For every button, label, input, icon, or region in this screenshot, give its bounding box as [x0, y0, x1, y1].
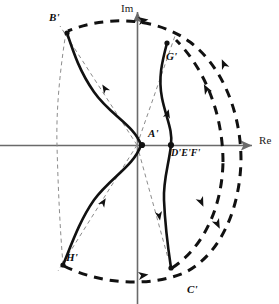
node-dot-G [164, 40, 169, 45]
dashed-inner-lower-arrow-icon [196, 196, 207, 208]
node-dot-C [168, 265, 173, 270]
dashed-inner-arc-upper [176, 40, 223, 162]
solid-curve-group [63, 33, 171, 268]
diagram-canvas [0, 0, 279, 304]
axis-group [0, 12, 252, 304]
point-label-B: B' [49, 11, 60, 23]
point-label-G: G' [166, 50, 177, 62]
real-axis-label: Re [259, 134, 272, 146]
point-label-A: A' [148, 127, 159, 139]
point-label-H: H' [66, 251, 78, 263]
solid-right-lower-arrow-icon [155, 211, 164, 221]
solid-branch-C-DEF-G [160, 43, 171, 268]
dashed-inner-arc-lower [172, 162, 223, 268]
dashed-outer-upper-arrow-icon [218, 58, 229, 70]
node-dot-H [60, 262, 65, 267]
imaginary-axis-label: Im [121, 2, 134, 14]
dashed-arc-group [64, 21, 241, 282]
point-label-DEF: D'E'F' [171, 147, 201, 158]
node-dot-group [60, 30, 174, 270]
point-label-C: C' [187, 283, 198, 295]
solid-branch-B-A-H [63, 33, 141, 265]
node-dot-A [139, 142, 145, 148]
dashed-thin-left-arc [57, 32, 66, 264]
solid-curve-arrowheads [98, 83, 172, 222]
dashed-outer-arc-lower [64, 160, 241, 282]
node-dot-B [64, 30, 69, 35]
nyquist-diagram: Im Re B' G' A' D'E'F' H' C' [0, 0, 279, 304]
dashed-outer-lower-arrow-icon [212, 218, 224, 230]
dashed-bottom-arrow-icon [138, 271, 149, 280]
